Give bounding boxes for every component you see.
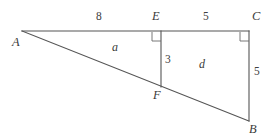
measure-label-ec: 5 bbox=[203, 11, 209, 23]
geometry-canvas bbox=[0, 0, 269, 138]
right-angle-mark-at-e bbox=[152, 32, 161, 41]
region-label-a: a bbox=[112, 41, 118, 53]
vertex-label-e: E bbox=[152, 10, 160, 23]
vertex-label-c: C bbox=[252, 10, 260, 23]
measure-label-cb: 5 bbox=[254, 66, 260, 78]
measure-label-ae: 8 bbox=[96, 11, 102, 23]
measure-label-ef: 3 bbox=[165, 54, 171, 66]
vertex-label-b: B bbox=[249, 123, 257, 136]
region-label-d: d bbox=[199, 58, 205, 70]
vertex-label-f: F bbox=[153, 89, 161, 102]
geometry-diagram: A E C F B 8 5 3 5 a d bbox=[0, 0, 269, 138]
segment-ab bbox=[22, 31, 249, 121]
vertex-label-a: A bbox=[12, 36, 20, 49]
right-angle-mark-at-c bbox=[240, 32, 249, 41]
